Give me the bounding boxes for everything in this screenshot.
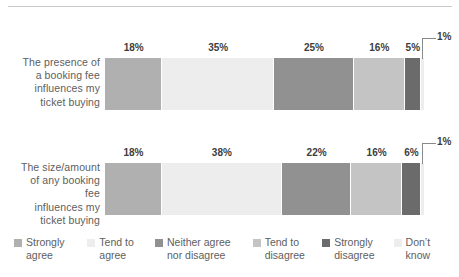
stacked-bar-1: [105, 163, 424, 215]
value-label-tend-to-disagree: 16%: [354, 42, 405, 53]
bar-segment-tend-to-agree: [162, 58, 274, 110]
legend-item-dont-know[interactable]: Don’t know: [394, 236, 450, 262]
value-label-tend-to-agree: 38%: [162, 147, 282, 158]
category-label-line: The presence of: [16, 56, 100, 69]
legend-item-tend-to-disagree[interactable]: Tend to disagree: [253, 236, 323, 262]
bar-segment-strongly-disagree: [405, 58, 421, 110]
bar-segment-neither-agree-nor-disagree: [282, 163, 351, 215]
bar-segment-tend-to-disagree: [354, 58, 405, 110]
legend-item-strongly-disagree[interactable]: Strongly disagree: [322, 236, 393, 262]
category-label-line: influences my: [16, 82, 100, 95]
callout-label-0: 1%: [437, 31, 451, 42]
bar-segment-strongly-agree: [105, 58, 162, 110]
legend-label: Tend to agree: [99, 236, 133, 262]
legend-label: Don’t know: [406, 236, 431, 262]
value-label-strongly-disagree: 5%: [405, 42, 421, 53]
bar-segment-strongly-disagree: [402, 163, 421, 215]
legend-label: Strongly disagree: [334, 236, 374, 262]
category-label-line: influences my: [16, 201, 100, 214]
stacked-bar-0: [105, 58, 424, 110]
legend-swatch-icon: [14, 239, 22, 247]
value-label-row-0: 18%35%25%16%5%: [105, 42, 424, 56]
value-label-strongly-disagree: 6%: [402, 147, 421, 158]
category-label-line: a booking fee: [16, 69, 100, 82]
value-label-row-1: 18%38%22%16%6%: [105, 147, 424, 161]
legend-swatch-icon: [155, 239, 163, 247]
category-label-1: The size/amountof any booking feeinfluen…: [16, 161, 100, 227]
legend-swatch-icon: [87, 239, 95, 247]
value-label-tend-to-disagree: 16%: [351, 147, 402, 158]
category-label-line: ticket buying: [16, 96, 100, 109]
chart-legend: Strongly agreeTend to agreeNeither agree…: [14, 236, 450, 272]
category-label-line: The size/amount: [16, 161, 100, 174]
legend-label: Neither agree nor disagree: [167, 236, 231, 262]
bar-segment-dont-know: [421, 58, 424, 110]
legend-label: Tend to disagree: [265, 236, 305, 262]
bar-segment-neither-agree-nor-disagree: [274, 58, 354, 110]
legend-swatch-icon: [322, 239, 330, 247]
legend-swatch-icon: [394, 239, 402, 247]
top-divider-rule: [8, 6, 452, 7]
legend-item-strongly-agree[interactable]: Strongly agree: [14, 236, 87, 262]
bar-segment-tend-to-disagree: [351, 163, 402, 215]
bar-segment-dont-know: [421, 163, 424, 215]
bar-segment-tend-to-agree: [162, 163, 282, 215]
bar-segment-strongly-agree: [105, 163, 162, 215]
value-label-neither-agree-nor-disagree: 22%: [282, 147, 351, 158]
value-label-strongly-agree: 18%: [105, 147, 162, 158]
value-label-strongly-agree: 18%: [105, 42, 162, 53]
legend-swatch-icon: [253, 239, 261, 247]
callout-label-1: 1%: [437, 136, 451, 147]
stacked-bar-chart: The presence ofa booking feeinfluences m…: [0, 0, 459, 277]
legend-label: Strongly agree: [26, 236, 65, 262]
value-label-tend-to-agree: 35%: [162, 42, 274, 53]
value-label-neither-agree-nor-disagree: 25%: [274, 42, 354, 53]
legend-item-neither-agree-nor-disagree[interactable]: Neither agree nor disagree: [155, 236, 253, 262]
legend-item-tend-to-agree[interactable]: Tend to agree: [87, 236, 155, 262]
category-label-line: of any booking fee: [16, 174, 100, 200]
category-label-line: ticket buying: [16, 214, 100, 227]
category-label-0: The presence ofa booking feeinfluences m…: [16, 56, 100, 109]
